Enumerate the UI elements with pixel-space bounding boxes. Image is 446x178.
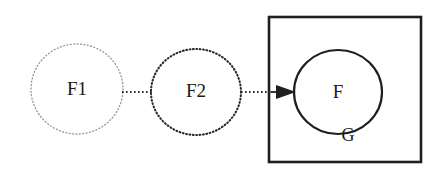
node-label-f2: F2 bbox=[186, 80, 206, 101]
arrowhead-icon bbox=[276, 85, 296, 99]
diagram-canvas: F1 F2 F G bbox=[0, 0, 446, 178]
diagram-svg: F1 F2 F G bbox=[0, 0, 446, 178]
node-label-f1: F1 bbox=[67, 78, 87, 99]
container-label-g: G bbox=[342, 125, 355, 145]
node-label-f: F bbox=[333, 81, 344, 102]
